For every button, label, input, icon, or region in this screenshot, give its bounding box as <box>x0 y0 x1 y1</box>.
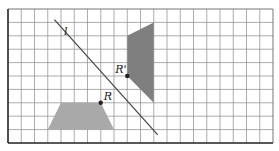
point-r <box>99 101 103 105</box>
original-trapezoid <box>48 103 114 130</box>
reflection-diagram: l R R' <box>0 0 279 151</box>
point-r-prime-label: R' <box>114 63 126 76</box>
point-r-label: R <box>103 90 112 103</box>
line-label: l <box>64 25 68 38</box>
